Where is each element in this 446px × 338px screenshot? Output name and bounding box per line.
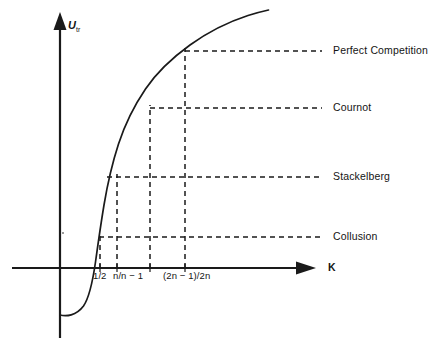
y-axis-label: Utr [68, 20, 80, 33]
level-label-stackelberg: Stackelberg [333, 171, 390, 182]
axes-group [12, 12, 316, 338]
level-label-perfect-competition: Perfect Competition [333, 45, 428, 56]
x-tick-label-n-over-n-minus-1: n/n − 1 [113, 271, 143, 281]
x-axis-label: K [328, 262, 336, 273]
figure-container: Utr K 1/2 n/n − 1 (2n − 1)/2n Perfect Co… [0, 0, 446, 338]
x-tick-label-2n-minus-1-over-2n: (2n − 1)/2n [163, 271, 210, 281]
scan-artifact-speck [62, 232, 64, 234]
level-label-cournot: Cournot [333, 102, 371, 113]
x-tick-label-half: 1/2 [93, 271, 107, 281]
x-axis-arrow-icon [296, 262, 316, 275]
y-axis-label-subscript: tr [76, 26, 80, 33]
level-label-collusion: Collusion [333, 231, 378, 242]
y-axis-label-main: U [68, 19, 76, 31]
threshold-lines-group [100, 48, 185, 268]
y-axis-arrow-icon [54, 12, 67, 30]
reference-lines-group [99, 51, 322, 237]
